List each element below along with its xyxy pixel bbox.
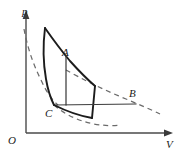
point-label-b: B: [129, 88, 136, 99]
dashed-curve-right-through-b: [66, 70, 160, 114]
chord-mid-right-vertical: [92, 86, 95, 118]
origin-label: O: [8, 135, 16, 146]
pv-diagram-canvas: [0, 0, 182, 161]
v-axis-arrowhead: [164, 130, 173, 137]
dashed-curve-bottom: [54, 105, 121, 126]
solid-branch-apex-through-a: [45, 28, 95, 86]
p-axis-label: p: [22, 6, 28, 17]
solid-cycle-group: [44, 28, 136, 118]
solid-branch-c-to-lower-right: [54, 105, 92, 118]
pv-diagram-figure: p V O A B C: [0, 0, 182, 161]
point-label-a: A: [62, 47, 69, 58]
v-axis-label: V: [166, 139, 173, 150]
point-label-c: C: [45, 108, 52, 119]
